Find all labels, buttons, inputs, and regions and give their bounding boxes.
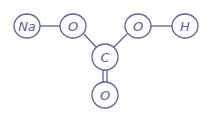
atom-o2: O (125, 14, 151, 38)
atom-label: Na (18, 19, 36, 34)
molecule-diagram: Na O C O H O (0, 0, 208, 118)
atom-label: H (180, 19, 190, 34)
atom-label: C (100, 50, 110, 65)
atom-h: H (172, 14, 198, 38)
atom-label: O (68, 19, 78, 34)
atom-c: C (92, 44, 118, 70)
bond-o1-c (84, 34, 96, 47)
atom-na: Na (14, 14, 40, 38)
atom-o3: O (92, 82, 118, 108)
bond-c-o2 (114, 34, 127, 47)
atom-o1: O (60, 14, 86, 38)
atom-label: O (133, 19, 143, 34)
atom-label: O (100, 88, 110, 103)
